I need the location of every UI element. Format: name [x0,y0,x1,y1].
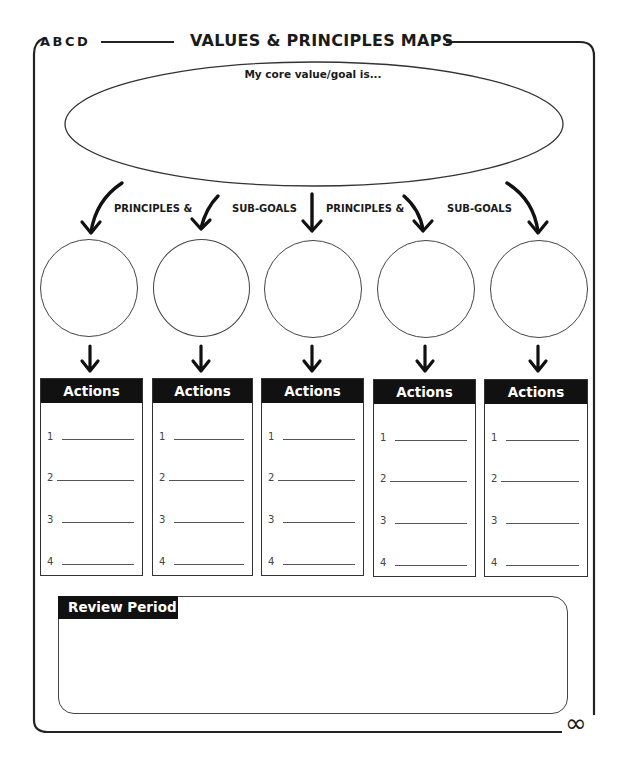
actions-box-5: Actions 1 2 3 4 [484,379,588,577]
principle-circle-4[interactable] [377,240,475,338]
line-number: 1 [47,431,53,442]
line-number: 2 [47,472,53,483]
line-number: 3 [491,515,497,526]
action-line[interactable]: 3 [491,512,579,526]
write-line [395,565,467,566]
connector-label: PRINCIPLES & [326,203,404,214]
line-number: 1 [491,432,497,443]
line-number: 2 [159,472,165,483]
write-line [57,480,134,481]
action-line[interactable]: 1 [268,428,355,442]
line-number: 2 [491,473,497,484]
write-line [174,439,244,440]
line-number: 1 [380,432,386,443]
line-number: 3 [380,515,386,526]
actions-box-3: Actions 1 2 3 4 [261,378,364,576]
action-line[interactable]: 1 [380,429,467,443]
action-line[interactable]: 4 [380,554,467,568]
action-line[interactable]: 2 [491,470,579,484]
action-line[interactable]: 1 [491,429,579,443]
write-line [501,481,579,482]
write-line [62,522,134,523]
review-period-header: Review Period [58,596,178,619]
line-number: 3 [268,514,274,525]
line-number: 1 [159,431,165,442]
actions-header: Actions [41,379,142,403]
connector-label: PRINCIPLES & [114,203,192,214]
principle-circle-3[interactable] [264,240,362,338]
line-number: 2 [268,472,274,483]
line-number: 2 [380,473,386,484]
connector-label: SUB-GOALS [447,203,512,214]
principle-circle-2[interactable] [153,239,250,337]
line-number: 3 [159,514,165,525]
actions-box-1: Actions 1 2 3 4 [40,378,143,576]
connector-label: SUB-GOALS [232,203,297,214]
action-line[interactable]: 2 [47,469,134,483]
line-number: 4 [491,557,497,568]
line-number: 4 [268,556,274,567]
write-line [395,523,467,524]
principle-circle-5[interactable] [490,240,588,338]
write-line [506,440,579,441]
write-line [390,481,467,482]
write-line [283,564,355,565]
write-line [283,439,355,440]
page-title: VALUES & PRINCIPLES MAPS [190,31,440,50]
write-line [62,439,134,440]
write-line [174,564,244,565]
action-line[interactable]: 3 [159,511,244,525]
actions-header: Actions [485,380,587,404]
action-line[interactable]: 4 [47,553,134,567]
write-line [506,523,579,524]
line-number: 1 [268,431,274,442]
action-line[interactable]: 3 [380,512,467,526]
action-line[interactable]: 1 [159,428,244,442]
write-line [62,564,134,565]
action-line[interactable]: 2 [380,470,467,484]
actions-header: Actions [262,379,363,403]
action-line[interactable]: 3 [47,511,134,525]
write-line [395,440,467,441]
actions-box-2: Actions 1 2 3 4 [152,378,253,576]
principle-circle-1[interactable] [40,239,138,337]
action-line[interactable]: 1 [47,428,134,442]
actions-header: Actions [374,380,475,404]
action-line[interactable]: 3 [268,511,355,525]
action-line[interactable]: 2 [268,469,355,483]
action-line[interactable]: 4 [491,554,579,568]
line-number: 4 [47,556,53,567]
review-period-box[interactable]: Review Period [58,596,568,714]
actions-header: Actions [153,379,252,403]
write-line [283,522,355,523]
action-line[interactable]: 4 [159,553,244,567]
write-line [169,480,244,481]
actions-box-4: Actions 1 2 3 4 [373,379,476,577]
core-value-prompt: My core value/goal is... [200,68,426,80]
infinity-icon: ∞ [565,710,587,736]
action-line[interactable]: 2 [159,469,244,483]
line-number: 3 [47,514,53,525]
line-number: 4 [159,556,165,567]
core-value-field[interactable] [100,85,530,175]
write-line [278,480,355,481]
action-line[interactable]: 4 [268,553,355,567]
write-line [174,522,244,523]
line-number: 4 [380,557,386,568]
write-line [506,565,579,566]
brand-logo: ABCD [40,34,90,49]
